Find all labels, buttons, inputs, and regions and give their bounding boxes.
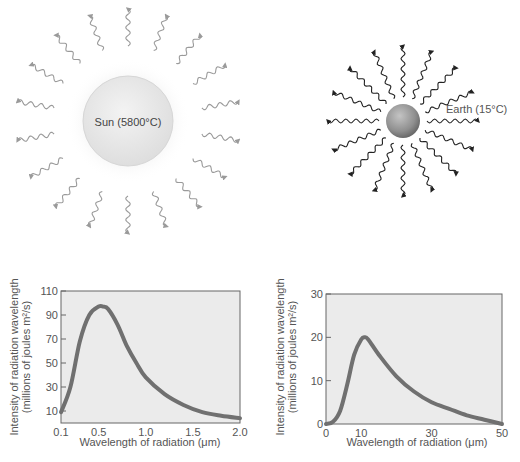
y-tick-label: 10 [46, 405, 58, 417]
radiation-ray-icon [193, 65, 225, 84]
radiation-ray-icon [18, 100, 54, 109]
radiation-ray-icon [56, 35, 80, 63]
sun-label: Sun (5800°C) [95, 116, 162, 128]
radiation-ray-icon [373, 52, 394, 99]
radiation-ray-icon [126, 196, 130, 233]
radiation-ray-icon [401, 145, 405, 196]
radiation-ray-icon [202, 101, 238, 110]
x-axis-label: Wavelength of radiation (μm) [79, 436, 220, 448]
radiation-ray-icon [18, 132, 54, 141]
sun-diagram: Sun (5800°C) [0, 0, 260, 240]
earth-diagram: Earth (15°C) [280, 0, 520, 240]
radiation-ray-icon [126, 9, 130, 46]
sun-spectrum-chart: 10305070901100.10.51.01.52.0 Wavelength … [0, 250, 260, 462]
radiation-ray-icon [334, 129, 381, 150]
x-axis-label: Wavelength of radiation (μm) [346, 436, 487, 448]
x-tick-label: 0.1 [53, 426, 68, 438]
radiation-ray-icon [31, 64, 63, 83]
y-tick-label: 110 [40, 285, 58, 297]
y-axis-label-line1: Intensity of radiation wavelength [274, 278, 286, 435]
y-tick-label: 30 [46, 381, 58, 393]
y-tick-label: 50 [46, 357, 58, 369]
y-tick-label: 10 [311, 375, 323, 387]
radiation-ray-icon [176, 179, 200, 207]
radiation-ray-icon [425, 130, 472, 150]
radiation-ray-icon [350, 138, 386, 174]
radiation-ray-icon [154, 16, 168, 51]
x-tick-label: 50 [496, 427, 508, 439]
x-tick-label: 0 [323, 427, 329, 439]
radiation-ray-icon [401, 46, 405, 97]
radiation-ray-icon [374, 143, 394, 190]
y-tick-label: 90 [46, 309, 58, 321]
radiation-ray-icon [427, 119, 478, 123]
y-tick-label: 20 [311, 331, 323, 343]
radiation-ray-icon [334, 92, 381, 112]
radiation-ray-icon [328, 119, 379, 123]
radiation-ray-icon [412, 52, 432, 99]
radiation-ray-icon [56, 178, 80, 206]
radiation-ray-icon [152, 192, 166, 227]
y-tick-label: 30 [311, 288, 323, 300]
radiation-ray-icon [420, 68, 456, 104]
x-tick-label: 2.0 [232, 426, 247, 438]
y-axis-label-line2: (millions of joules m²/s) [286, 301, 298, 413]
earth-spectrum-chart: 01020300103050 Wavelength of radiation (… [260, 250, 520, 462]
earth-body [386, 104, 420, 138]
radiation-ray-icon [420, 138, 456, 174]
y-axis-label-line1: Intensity of radiation wavelength [8, 278, 20, 435]
radiation-ray-icon [31, 158, 63, 177]
radiation-ray-icon [176, 35, 200, 63]
radiation-ray-icon [202, 133, 238, 142]
y-axis-label-line2: (millions of joules m²/s) [20, 301, 32, 413]
radiation-ray-icon [193, 159, 225, 178]
radiation-ray-icon [350, 68, 386, 104]
earth-label: Earth (15°C) [446, 103, 507, 115]
radiation-ray-icon [411, 143, 432, 190]
radiation-ray-icon [89, 192, 103, 227]
y-tick-label: 70 [46, 333, 58, 345]
radiation-ray-icon [90, 16, 104, 51]
plot-area [61, 291, 240, 423]
